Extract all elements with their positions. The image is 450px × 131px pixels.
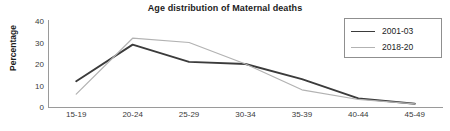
legend-item[interactable]: 2001-03: [351, 23, 435, 39]
legend-label-series-1: 2018-20: [382, 42, 413, 52]
legend-label-series-0: 2001-03: [382, 26, 413, 36]
legend-item[interactable]: 2018-20: [351, 39, 435, 55]
chart-container: Age distribution of Maternal deaths Perc…: [0, 0, 450, 131]
legend-swatch-series-1: [351, 47, 375, 48]
legend-swatch-series-0: [351, 31, 375, 32]
legend: 2001-03 2018-20: [344, 18, 442, 58]
